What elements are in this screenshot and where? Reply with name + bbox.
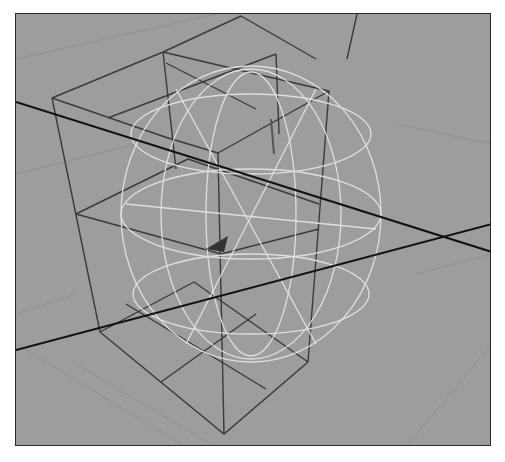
manipulator-handle[interactable] [271,119,274,154]
3d-viewport[interactable] [15,13,491,446]
lattice-cube[interactable] [52,14,357,434]
viewport-canvas[interactable] [16,14,491,446]
world-axis [16,102,491,350]
manipulator-arrow-icon[interactable] [206,236,228,252]
